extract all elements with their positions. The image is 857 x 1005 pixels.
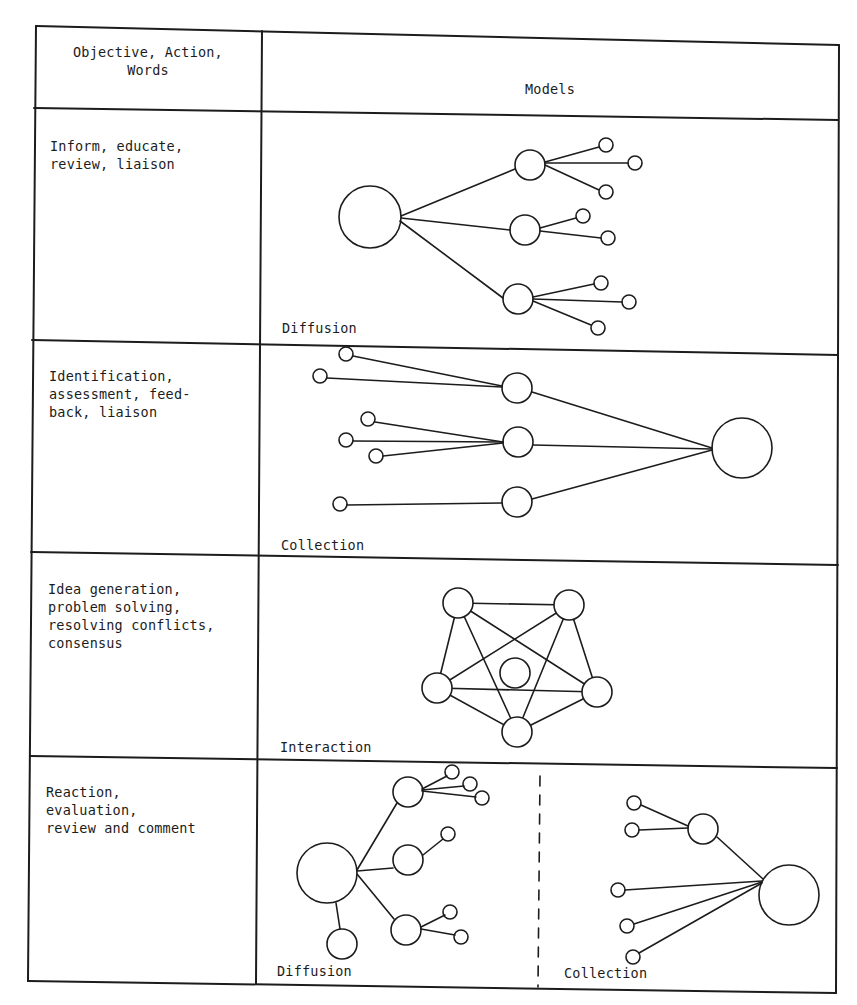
row-1-objective: Inform, educate, review, liaison — [50, 137, 255, 173]
header-models: Models — [262, 80, 838, 98]
center-node — [500, 658, 530, 688]
row-2-divider — [31, 552, 838, 565]
row-1-divider — [32, 340, 838, 355]
row-3-objective: Idea generation, problem solving, resolv… — [48, 580, 263, 652]
row-2-model-caption: Collection — [281, 536, 364, 554]
collector-node — [759, 865, 819, 925]
header-objective-action-words: Objective, Action, Words — [38, 43, 258, 79]
collector-node — [712, 418, 772, 478]
table-right-border — [836, 45, 839, 993]
table-bottom-border — [28, 981, 836, 993]
reaction-collection-diagram — [611, 796, 819, 964]
row-3-divider — [30, 756, 837, 768]
column-divider — [256, 31, 262, 984]
row-4-dashed-divider — [538, 776, 540, 987]
reaction-diffusion-diagram — [297, 765, 489, 959]
row-1-model-caption: Diffusion — [282, 319, 357, 337]
header-row-divider — [34, 108, 838, 120]
diffusion-model-diagram — [339, 138, 642, 335]
row-4-objective: Reaction, evaluation, review and comment — [46, 783, 256, 837]
row-4-model-caption-right: Collection — [564, 964, 647, 982]
table-left-border — [28, 26, 36, 981]
source-node — [339, 186, 401, 248]
interaction-model-diagram — [422, 588, 612, 747]
source-node — [297, 843, 357, 903]
row-4-model-caption-left: Diffusion — [277, 962, 352, 980]
row-2-objective: Identification, assessment, feed- back, … — [49, 367, 254, 421]
row-3-model-caption: Interaction — [280, 738, 372, 756]
collection-model-diagram — [313, 347, 772, 517]
document-page: Objective, Action, Words Models Inform, … — [0, 0, 857, 1005]
